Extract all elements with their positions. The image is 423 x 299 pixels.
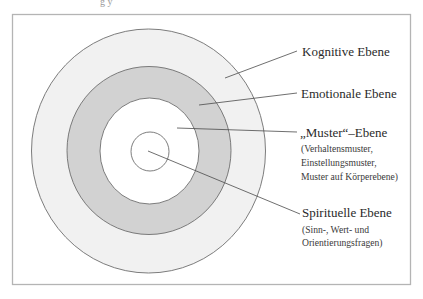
label-kognitive-ebene: Kognitive Ebene	[302, 44, 390, 59]
label-spirituelle-ebene: Spirituelle Ebene	[302, 205, 392, 220]
label-emotionale-ebene: Emotionale Ebene	[301, 86, 397, 101]
label-muster-ebene: „Muster“–Ebene	[300, 125, 388, 140]
muster-detail-line-1: (Verhaltensmuster,	[301, 143, 373, 155]
muster-detail-line-3: Muster auf Körperebene)	[301, 171, 398, 183]
cut-off-heading-fragment: g y	[100, 0, 113, 7]
concentric-levels-diagram: g y Kognitive Ebene Emotionale Ebene „Mu…	[0, 0, 423, 299]
muster-detail-line-2: Einstellungsmuster,	[301, 157, 377, 168]
spirituelle-detail-line-2: Orientierungsfragen)	[302, 237, 382, 249]
spirituelle-detail-line-1: (Sinn-, Wert- und	[302, 224, 369, 236]
